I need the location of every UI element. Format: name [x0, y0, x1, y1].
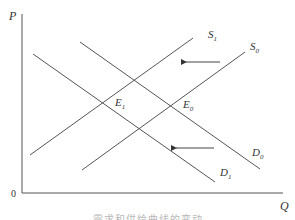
origin-label: 0	[11, 188, 16, 199]
e0-label: E0	[182, 98, 194, 113]
d1-label: D1	[219, 166, 231, 181]
d0-label: D0	[251, 146, 264, 161]
e1-label: E1	[114, 96, 125, 111]
supply-curve-s0	[82, 52, 245, 170]
y-axis-label: P	[8, 9, 17, 23]
s0-label: S0	[250, 40, 260, 55]
supply-curve-s1	[30, 38, 193, 155]
s1-label: S1	[208, 28, 217, 43]
supply-demand-diagram: P Q 0 S1 S0 D0 D1 E1 E0	[0, 0, 295, 220]
figure-caption: 需求和供给曲线的变动	[0, 211, 295, 220]
